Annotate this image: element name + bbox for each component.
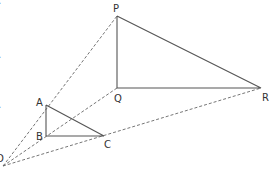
label-a: A [36,97,43,108]
edge-fragment: . [0,0,1,6]
label-r: R [262,92,269,103]
ray-o-q [3,88,117,166]
triangle-abc [46,105,104,136]
triangle-pqr [117,16,261,88]
label-c: C [104,139,111,150]
label-o: O [0,153,4,164]
label-q: Q [114,93,122,104]
edge-fragment: . [0,49,1,60]
ray-o-p [3,16,117,166]
edge-fragment: . [0,99,1,110]
label-b: B [36,131,43,142]
enlargement-diagram: P Q R A B C O . . . [0,0,272,179]
label-p: P [113,3,119,14]
